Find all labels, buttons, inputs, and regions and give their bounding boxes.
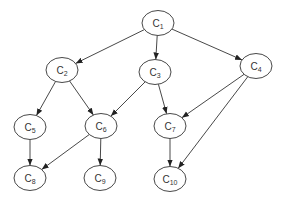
arrow-icon — [178, 77, 248, 169]
node-c5: C5 — [14, 115, 46, 140]
arrow-icon — [76, 30, 145, 64]
arrow-icon — [158, 84, 166, 114]
edge-c3-to-c7 — [158, 84, 166, 114]
node-c9: C9 — [84, 166, 116, 191]
arrow-icon — [182, 74, 244, 117]
edge-c2-to-c6 — [70, 81, 94, 115]
dag-diagram: C1C2C3C4C5C6C7C8C9C10 — [0, 0, 286, 205]
edge-c4-to-c7 — [182, 74, 244, 117]
node-c8: C8 — [14, 166, 46, 191]
arrow-icon — [70, 81, 94, 115]
arrow-icon — [42, 135, 90, 170]
node-c6: C6 — [85, 114, 117, 139]
node-c2: C2 — [46, 58, 78, 83]
arrow-icon — [100, 139, 101, 166]
arrow-icon — [156, 36, 157, 60]
edge-c2-to-c5 — [36, 81, 55, 115]
node-c1: C1 — [142, 11, 174, 36]
node-c7: C7 — [154, 114, 186, 139]
node-c4: C4 — [240, 54, 272, 79]
arrow-icon — [172, 29, 242, 60]
edge-c1-to-c3 — [156, 36, 157, 60]
edge-c3-to-c6 — [111, 82, 145, 116]
edge-c4-to-c10 — [178, 77, 248, 169]
node-c3: C3 — [139, 60, 171, 85]
edge-c1-to-c2 — [76, 30, 145, 64]
arrow-icon — [36, 81, 55, 115]
edge-c1-to-c4 — [172, 29, 242, 60]
edge-c6-to-c9 — [100, 139, 101, 166]
edges-layer — [30, 29, 248, 169]
edge-c6-to-c8 — [42, 135, 90, 170]
nodes-layer: C1C2C3C4C5C6C7C8C9C10 — [14, 11, 272, 192]
node-c10: C10 — [154, 167, 186, 192]
arrow-icon — [111, 82, 145, 116]
